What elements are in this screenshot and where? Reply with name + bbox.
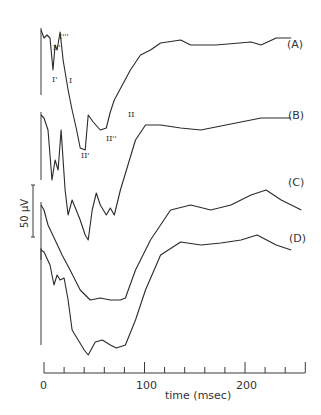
trace-c xyxy=(41,190,301,300)
x-axis-title: time (msec) xyxy=(165,389,231,402)
trace-label-b: (B) xyxy=(288,109,304,122)
peak-label-ii-prime: II' xyxy=(81,151,90,160)
trace-label-a: (A) xyxy=(287,38,303,51)
x-tick-label-0: 0 xyxy=(40,379,47,392)
x-tick-label-100: 100 xyxy=(136,379,157,392)
trace-b xyxy=(41,115,291,240)
scale-bar-label: 50 μV xyxy=(19,199,30,228)
evoked-potential-chart: (A) (B) (C) (D) I' I'' I''' I II' II'' I… xyxy=(0,0,321,415)
peak-label-ii-double-prime: II'' xyxy=(106,134,117,143)
trace-label-c: (C) xyxy=(288,176,304,189)
x-axis xyxy=(44,362,305,373)
peak-label-i: I xyxy=(69,76,72,85)
peak-label-i-triple-prime: I''' xyxy=(59,32,69,41)
trace-d xyxy=(41,235,291,355)
trace-a xyxy=(41,30,291,150)
peak-label-i-double-prime: I'' xyxy=(53,43,61,52)
peak-label-ii: II xyxy=(128,110,134,119)
peak-label-i-prime: I' xyxy=(52,75,57,84)
trace-label-d: (D) xyxy=(289,232,306,245)
x-tick-label-200: 200 xyxy=(236,379,257,392)
